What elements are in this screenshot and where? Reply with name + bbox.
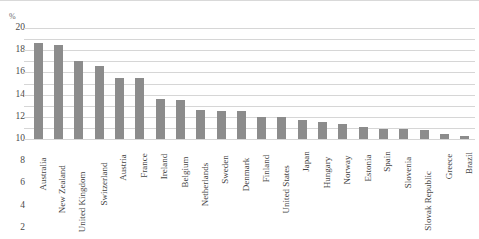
bar xyxy=(440,134,449,139)
x-axis-tick-label-text: Denmark xyxy=(241,158,250,192)
x-axis-tick-label-text: Ireland xyxy=(160,154,169,179)
x-axis-tick-label: Denmark xyxy=(237,141,246,150)
x-axis-tick-label: Finland xyxy=(257,141,266,150)
x-axis-tick-label-text: Finland xyxy=(262,155,271,183)
plot-area: 20181614121086420 xyxy=(28,28,475,139)
bar xyxy=(277,117,286,139)
bar xyxy=(196,110,205,139)
x-axis-tick-label-text: Sweden xyxy=(221,155,230,184)
x-axis-tick-label: Switzerland xyxy=(95,141,104,150)
x-axis-tick-label-text: Brazil xyxy=(465,152,474,174)
bar xyxy=(257,117,266,139)
y-axis-tick-label: 8 xyxy=(20,156,25,166)
x-axis-tick-label: Spain xyxy=(379,141,388,150)
x-axis-tick-label: Hungary xyxy=(318,141,327,150)
y-axis-tick-label: 2 xyxy=(20,223,25,233)
x-axis-tick-label-text: New Zealand xyxy=(58,165,67,213)
x-axis-tick-label: United States xyxy=(277,141,286,150)
x-axis-tick-label-text: Slovak Republic xyxy=(424,171,433,231)
y-axis-tick-label: 4 xyxy=(20,201,25,211)
x-axis-tick-label-text: Belgium xyxy=(180,157,189,188)
x-axis-tick-label-text: Slovenia xyxy=(404,157,413,189)
x-axis-tick-label-text: Australia xyxy=(38,158,47,191)
x-axis-tick-label-text: France xyxy=(140,153,149,178)
y-axis-tick-mark xyxy=(24,139,28,140)
y-axis-unit-label: % xyxy=(9,12,16,21)
x-axis-tick-label: United Kingdom xyxy=(74,141,83,150)
bar xyxy=(217,111,226,139)
x-axis-tick-label-text: Norway xyxy=(343,156,352,185)
bar-chart-figure: % 20181614121086420 AustraliaNew Zealand… xyxy=(0,0,479,239)
x-axis-tick-label: Greece xyxy=(440,141,449,150)
bar xyxy=(95,66,104,139)
x-axis-tick-label: Ireland xyxy=(156,141,165,150)
x-axis-tick-label: New Zealand xyxy=(54,141,63,150)
x-axis-tick-label: Slovak Republic xyxy=(420,141,429,150)
bar xyxy=(54,45,63,139)
x-axis-tick-label-text: United States xyxy=(282,165,291,213)
x-axis-tick-label-text: Estonia xyxy=(363,155,372,182)
bar xyxy=(135,78,144,139)
x-axis-tick-label-text: Netherlands xyxy=(201,163,210,206)
bar xyxy=(298,120,307,139)
bar xyxy=(399,129,408,139)
x-axis-tick-label: Norway xyxy=(338,141,347,150)
x-axis-tick-label: Japan xyxy=(298,141,307,150)
bar xyxy=(156,99,165,139)
x-axis-tick-label-text: Switzerland xyxy=(99,163,108,206)
bar xyxy=(359,127,368,139)
x-axis-tick-label: Australia xyxy=(34,141,43,150)
x-axis-tick-label-text: Austria xyxy=(119,154,128,181)
bar xyxy=(74,61,83,139)
x-axis-tick-label: Estonia xyxy=(359,141,368,150)
x-axis-tick-label: Brazil xyxy=(460,141,469,150)
bar xyxy=(420,130,429,139)
x-axis-tick-label: Slovenia xyxy=(399,141,408,150)
bars-layer xyxy=(28,28,475,139)
x-axis-tick-label: Netherlands xyxy=(196,141,205,150)
x-axis-tick-label: Austria xyxy=(115,141,124,150)
x-axis-tick-label-text: Greece xyxy=(445,154,454,179)
bar xyxy=(34,43,43,139)
bar xyxy=(176,100,185,139)
x-axis-tick-label-text: Japan xyxy=(302,151,311,172)
bar xyxy=(237,111,246,139)
x-axis-tick-label: Sweden xyxy=(217,141,226,150)
bar xyxy=(379,129,388,139)
x-axis-tick-label: France xyxy=(135,141,144,150)
y-axis-tick-label: 6 xyxy=(20,179,25,189)
x-axis-tick-label: Belgium xyxy=(176,141,185,150)
bar xyxy=(318,122,327,139)
x-axis-tick-label-text: United Kingdom xyxy=(79,171,88,232)
gridline: 0 xyxy=(28,139,475,140)
x-axis-tick-label-text: Spain xyxy=(384,151,393,172)
bar xyxy=(115,78,124,139)
x-axis-tick-label-text: Hungary xyxy=(323,157,332,189)
x-axis-labels: AustraliaNew ZealandUnited KingdomSwitze… xyxy=(28,141,475,239)
bar xyxy=(460,136,469,139)
bar xyxy=(338,124,347,139)
